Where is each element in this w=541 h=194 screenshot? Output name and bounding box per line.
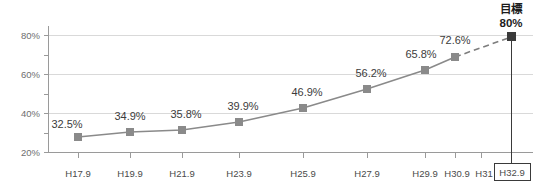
x-tick-label-h31: H31 <box>475 168 492 179</box>
target-point-marker <box>507 32 516 41</box>
x-tick-label-h21-9: H21.9 <box>169 168 194 179</box>
data-label-h17-9: 32.5% <box>51 118 82 130</box>
target-callout-title: 目標 <box>500 2 523 15</box>
x-axis: H17.9 H19.9 H21.9 H23.9 H25.9 H27.9 H29.… <box>49 153 533 179</box>
actual-line <box>78 57 455 137</box>
x-tick-label-h27-9: H27.9 <box>354 168 379 179</box>
x-tick-label-h25-9: H25.9 <box>290 168 315 179</box>
y-tick-label-60: 60% <box>21 69 41 80</box>
data-point-marker <box>235 118 243 126</box>
data-label-h23-9: 39.9% <box>227 100 258 112</box>
y-tick-label-80: 80% <box>21 30 41 41</box>
data-point-labels: 32.5% 34.9% 35.8% 39.9% 46.9% 56.2% 65.8… <box>51 34 470 130</box>
x-tick-label-h23-9: H23.9 <box>226 168 251 179</box>
line-chart: 80% 60% 40% 20% H17.9 H19.9 H21.9 H23.9 … <box>0 0 541 194</box>
data-label-h21-9: 35.8% <box>170 108 201 120</box>
y-tick-label-20: 20% <box>21 147 41 158</box>
x-tick-label-h30-9: H30.9 <box>444 168 469 179</box>
data-label-h25-9: 46.9% <box>291 86 322 98</box>
data-point-marker <box>74 133 82 141</box>
y-axis: 80% 60% 40% 20% <box>21 26 49 158</box>
data-label-h27-9: 56.2% <box>355 67 386 79</box>
x-tick-label-h17-9: H17.9 <box>65 168 90 179</box>
data-point-marker <box>299 104 307 112</box>
target-callout: 目標 80% <box>499 2 523 29</box>
data-point-marker <box>421 66 429 74</box>
data-label-h29-9: 65.8% <box>405 48 436 60</box>
data-label-h30-9: 72.6% <box>439 34 470 46</box>
data-point-marker <box>126 128 134 136</box>
x-tick-label-h29-9: H29.9 <box>412 168 437 179</box>
data-point-marker <box>363 85 371 93</box>
x-tick-label-h19-9: H19.9 <box>117 168 142 179</box>
data-point-marker <box>451 53 459 61</box>
target-callout-value: 80% <box>499 17 522 29</box>
x-tick-label-h32-9: H32.9 <box>499 167 524 178</box>
chart-container: 80% 60% 40% 20% H17.9 H19.9 H21.9 H23.9 … <box>0 0 541 194</box>
gridlines <box>49 36 533 114</box>
data-point-marker <box>178 126 186 134</box>
target-stem-group: H32.9 <box>495 36 531 181</box>
y-tick-label-40: 40% <box>21 108 41 119</box>
data-label-h19-9: 34.9% <box>114 110 145 122</box>
